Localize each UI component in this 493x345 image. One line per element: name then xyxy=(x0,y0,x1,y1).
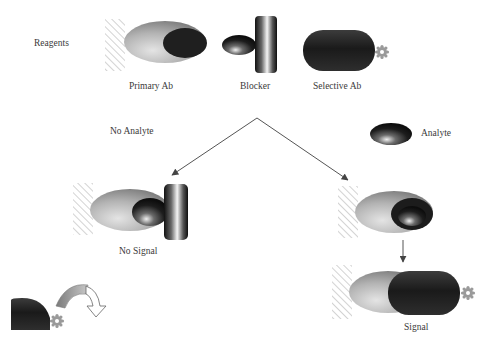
tag-icon xyxy=(461,286,475,300)
signal-complex xyxy=(332,265,475,319)
blocker-shape xyxy=(222,16,277,73)
diagram-canvas xyxy=(0,0,493,345)
selective-ab-shape xyxy=(303,30,389,71)
analyte-label: Analyte xyxy=(421,128,451,138)
surface-hatch xyxy=(73,183,93,235)
curved-arrow-icon xyxy=(56,285,88,308)
no-signal-label: No Signal xyxy=(119,246,157,256)
analyte-shape xyxy=(370,123,412,145)
primary-ab-label: Primary Ab xyxy=(129,81,173,91)
bound-analyte-complex xyxy=(338,186,433,238)
primary-ab-shape xyxy=(105,19,207,71)
no-analyte-label: No Analyte xyxy=(110,126,154,136)
reagents-label: Reagents xyxy=(34,38,69,48)
surface-hatch xyxy=(105,19,125,71)
blocker-label: Blocker xyxy=(240,81,270,91)
tag-icon xyxy=(375,45,389,59)
selective-ab-label: Selective Ab xyxy=(313,81,361,91)
branch-arrows xyxy=(172,118,348,180)
tag-icon xyxy=(50,314,64,328)
signal-label: Signal xyxy=(404,322,428,332)
tag-release xyxy=(11,285,106,330)
no-signal-complex xyxy=(73,183,188,240)
